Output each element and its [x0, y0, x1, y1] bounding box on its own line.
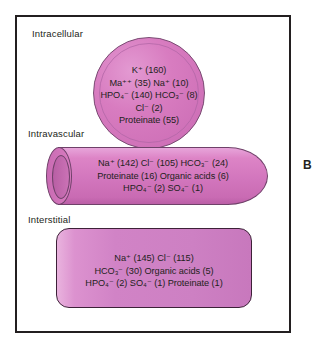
panel-letter: B: [303, 158, 312, 172]
intracellular-circle: K⁺ (160) Ma⁺⁺ (35) Na⁺ (10) HPO₄⁻ (140) …: [93, 37, 205, 149]
solute-line: Proteinate (55): [94, 114, 204, 127]
solute-line: Ma⁺⁺ (35) Na⁺ (10): [94, 77, 204, 90]
label-intravascular: Intravascular: [28, 128, 84, 139]
solute-line: Proteinate (16) Organic acids (6): [64, 170, 262, 183]
label-interstitial: Interstitial: [28, 214, 70, 225]
intravascular-cylinder: Na⁺ (142) Cl⁻ (105) HCO₃⁻ (24) Proteinat…: [46, 147, 268, 205]
interstitial-solute-list: Na⁺ (145) Cl⁻ (115) HCO₃⁻ (30) Organic a…: [57, 252, 251, 290]
solute-line: Cl⁻ (2): [94, 102, 204, 115]
solute-line: HCO₃⁻ (30) Organic acids (5): [57, 265, 251, 278]
solute-line: HPO₄⁻ (2) SO₄⁻ (1) Proteinate (1): [57, 277, 251, 290]
solute-line: HPO₄⁻ (140) HCO₃⁻ (8): [94, 89, 204, 102]
solute-line: HPO₄⁻ (2) SO₄⁻ (1): [64, 182, 262, 195]
intracellular-solute-list: K⁺ (160) Ma⁺⁺ (35) Na⁺ (10) HPO₄⁻ (140) …: [94, 64, 204, 127]
intravascular-solute-list: Na⁺ (142) Cl⁻ (105) HCO₃⁻ (24) Proteinat…: [64, 157, 262, 195]
solute-line: Na⁺ (145) Cl⁻ (115): [57, 252, 251, 265]
figure-panel-b: Intracellular K⁺ (160) Ma⁺⁺ (35) Na⁺ (10…: [0, 0, 328, 351]
label-intracellular: Intracellular: [32, 28, 83, 39]
solute-line: Na⁺ (142) Cl⁻ (105) HCO₃⁻ (24): [64, 157, 262, 170]
interstitial-box: Na⁺ (145) Cl⁻ (115) HCO₃⁻ (30) Organic a…: [56, 228, 252, 308]
solute-line: K⁺ (160): [94, 64, 204, 77]
